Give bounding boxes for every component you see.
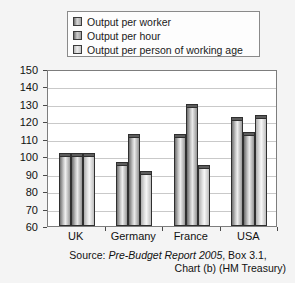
bar[interactable] <box>174 137 186 226</box>
source-prefix: Source: <box>69 249 108 261</box>
legend-item[interactable]: Output per worker <box>73 15 259 28</box>
bar[interactable] <box>83 156 95 226</box>
x-axis-tick-label: France <box>161 230 221 242</box>
legend-item-label: Output per person of working age <box>87 44 243 56</box>
bar-top-cap <box>231 117 243 121</box>
bar-group <box>174 71 210 226</box>
bar[interactable] <box>198 168 210 226</box>
legend-item[interactable]: Output per hour <box>73 29 259 42</box>
legend-item-label: Output per hour <box>87 30 161 42</box>
source-suffix: , Box 3.1, <box>222 249 266 261</box>
bar-top-cap <box>255 115 267 119</box>
y-axis-tick-label: 140 <box>8 82 38 93</box>
source-publication: Pre-Budget Report 2005 <box>108 249 222 261</box>
y-axis-tick-label: 90 <box>8 170 38 181</box>
x-axis-tick-label: UK <box>46 230 106 242</box>
bar-top-cap <box>186 104 198 108</box>
bar-groups <box>48 71 276 226</box>
chart-figure: Output per worker Output per hour Output… <box>0 0 295 283</box>
plot-area <box>47 70 277 227</box>
x-axis-tick-mark <box>277 227 278 231</box>
x-axis-tick-label: Germany <box>103 230 163 242</box>
bar-group <box>116 71 152 226</box>
bar-top-cap <box>198 165 210 169</box>
bar-top-cap <box>174 134 186 138</box>
bar-top-cap <box>83 153 95 157</box>
source-note: Source: Pre-Budget Report 2005, Box 3.1,… <box>48 249 288 275</box>
y-axis-tick-label: 120 <box>8 117 38 128</box>
bar-top-cap <box>140 171 152 175</box>
bar[interactable] <box>59 156 71 226</box>
legend-swatch-series-3-icon <box>73 45 82 54</box>
source-line-2: Chart (b) (HM Treasury) <box>48 262 288 275</box>
bar-top-cap <box>71 153 83 157</box>
y-axis-tick-label: 100 <box>8 152 38 163</box>
legend-item-label: Output per worker <box>87 16 171 28</box>
legend-swatch-series-1-icon <box>73 17 82 26</box>
y-axis-tick-label: 70 <box>8 205 38 216</box>
bar[interactable] <box>71 156 83 226</box>
bar-top-cap <box>243 132 255 136</box>
bar[interactable] <box>128 137 140 226</box>
y-axis-tick-label: 130 <box>8 100 38 111</box>
x-axis-tick-label: USA <box>218 230 278 242</box>
bar[interactable] <box>140 174 152 226</box>
bar-group <box>231 71 267 226</box>
bar[interactable] <box>231 120 243 226</box>
bar[interactable] <box>243 135 255 226</box>
y-axis-tick-mark <box>43 227 47 228</box>
legend-swatch-series-2-icon <box>73 31 82 40</box>
bar-top-cap <box>59 153 71 157</box>
bar[interactable] <box>116 165 128 226</box>
y-axis-tick-label: 110 <box>8 135 38 146</box>
y-axis-tick-label: 60 <box>8 222 38 233</box>
y-axis-tick-label: 80 <box>8 187 38 198</box>
bar[interactable] <box>186 107 198 226</box>
legend-item[interactable]: Output per person of working age <box>73 43 259 56</box>
bar[interactable] <box>255 118 267 226</box>
y-axis-tick-label: 150 <box>8 65 38 76</box>
bar-top-cap <box>128 134 140 138</box>
bar-group <box>59 71 95 226</box>
chart-legend: Output per worker Output per hour Output… <box>67 11 260 57</box>
bar-top-cap <box>116 162 128 166</box>
